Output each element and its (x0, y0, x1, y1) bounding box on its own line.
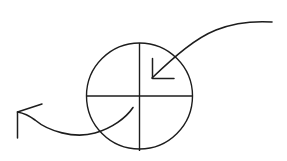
drawing-canvas: Hand-drawn circle with crosshair and two… (0, 0, 287, 161)
outgoing-arrow-bottom-left-head-icon (18, 104, 43, 138)
diagram-svg: Hand-drawn circle with crosshair and two… (0, 0, 287, 161)
incoming-arrow-top-right-curve (152, 22, 272, 78)
outgoing-arrow-bottom-left-curve (18, 108, 134, 136)
